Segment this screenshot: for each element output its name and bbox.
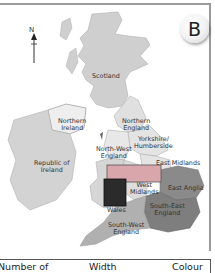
label-northern-england: Northern England: [122, 118, 150, 132]
overlay-square: [104, 179, 126, 206]
label-se-line2: England: [150, 210, 185, 217]
label-ne-line2: England: [122, 125, 150, 132]
region-east-anglia: [160, 166, 204, 200]
badge-b: B: [180, 14, 209, 43]
island-skye: [60, 18, 72, 40]
label-wales: Wales: [107, 207, 126, 214]
islands-west: [66, 48, 78, 74]
north-arrow-icon: [30, 27, 38, 63]
data-table-header: Number of Width Colour: [0, 259, 211, 273]
isle-of-man: [100, 132, 103, 140]
header-number-of: Number of: [0, 261, 48, 272]
label-north-west: North-West England: [96, 146, 132, 160]
label-east-midlands: East Midlands: [156, 160, 200, 167]
header-colour: Colour: [172, 261, 203, 272]
label-nw-line2: England: [96, 153, 132, 160]
label-west-midlands: West Midlands: [130, 182, 158, 196]
label-south-east: South-East England: [150, 203, 185, 217]
label-republic-of-ireland: Republic of Ireland: [34, 160, 70, 174]
label-scotland: Scotland: [92, 73, 120, 80]
badge-letter: B: [188, 18, 201, 40]
label-east-anglia: East Anglia: [168, 185, 204, 192]
label-south-west: South-West England: [108, 222, 144, 236]
label-ni-line2: Ireland: [58, 125, 86, 132]
label-sw-line2: England: [108, 229, 144, 236]
label-roi-line2: Ireland: [34, 167, 70, 174]
label-northern-ireland: Northern Ireland: [58, 118, 86, 132]
region-scotland: [78, 12, 150, 108]
label-yorkshire: Yorkshire/ Humberside: [134, 136, 173, 150]
header-width: Width: [89, 261, 117, 272]
label-yh-line2: Humberside: [134, 143, 173, 150]
label-wm-line2: Midlands: [130, 189, 158, 196]
